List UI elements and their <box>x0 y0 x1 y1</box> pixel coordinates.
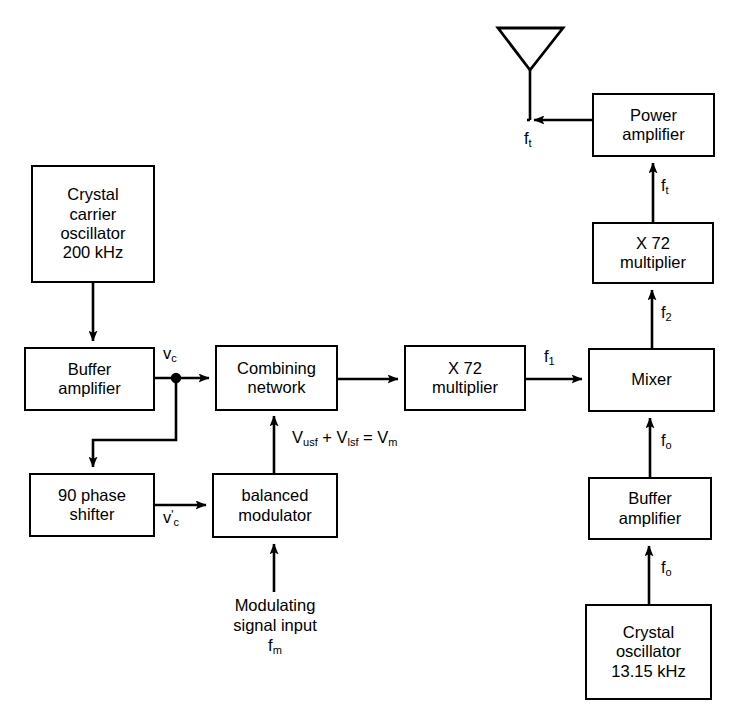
label-ft-antenna: ft <box>524 129 532 148</box>
block-line: X 72 <box>636 234 670 253</box>
modulating-line-1: Modulating <box>196 595 354 615</box>
block-line: amplifier <box>619 509 681 528</box>
block-line: 13.15 kHz <box>611 662 685 681</box>
block-line: carrier <box>70 205 117 224</box>
block-line: Power <box>630 106 677 125</box>
block-line: multiplier <box>620 253 686 272</box>
block-diagram-canvas: Crystal carrier oscillator 200 kHz Buffe… <box>0 0 744 722</box>
label-fo-mixer-in: fo <box>661 431 672 450</box>
block-line: oscillator <box>616 642 681 661</box>
block-mixer[interactable]: Mixer <box>588 348 715 412</box>
block-line: Crystal <box>67 185 118 204</box>
block-line: 90 phase <box>58 486 126 505</box>
block-crystal-carrier-oscillator[interactable]: Crystal carrier oscillator 200 kHz <box>31 165 155 283</box>
block-line: modulator <box>238 506 311 525</box>
block-buffer-amplifier-right[interactable]: Buffer amplifier <box>588 477 712 540</box>
label-modulating-signal-input: Modulating signal input fm <box>196 595 354 656</box>
block-line: amplifier <box>58 379 120 398</box>
block-line: 200 kHz <box>63 243 124 262</box>
block-buffer-amplifier-left[interactable]: Buffer amplifier <box>24 347 155 411</box>
label-vc-prime: v'c <box>163 508 179 527</box>
block-balanced-modulator[interactable]: balanced modulator <box>212 473 338 538</box>
block-line: network <box>248 378 306 397</box>
block-line: Combining <box>237 359 316 378</box>
label-fo-buffer-in: fo <box>661 558 672 577</box>
label-sideband-sum: Vusf + Vlsf = Vm <box>292 428 398 447</box>
block-line: Buffer <box>628 489 672 508</box>
block-multiplier-right[interactable]: X 72 multiplier <box>592 222 714 284</box>
label-vc: vc <box>163 344 177 363</box>
block-phase-shifter[interactable]: 90 phase shifter <box>29 473 155 537</box>
antenna-icon <box>498 28 563 120</box>
label-fm: fm <box>196 635 354 655</box>
block-combining-network[interactable]: Combining network <box>215 345 338 411</box>
block-line: Mixer <box>631 370 671 389</box>
label-ft-multiplier-out: ft <box>661 176 669 195</box>
block-line: X 72 <box>448 359 482 378</box>
modulating-line-2: signal input <box>196 615 354 635</box>
label-f2: f2 <box>661 303 672 322</box>
block-line: oscillator <box>60 224 125 243</box>
block-line: Crystal <box>623 623 674 642</box>
block-line: shifter <box>70 505 115 524</box>
block-multiplier-left[interactable]: X 72 multiplier <box>404 345 526 411</box>
block-line: amplifier <box>622 125 684 144</box>
block-line: multiplier <box>432 378 498 397</box>
label-f1: f1 <box>544 347 555 366</box>
junction-dot-vc <box>171 373 181 383</box>
block-crystal-oscillator-right[interactable]: Crystal oscillator 13.15 kHz <box>585 604 712 700</box>
block-power-amplifier[interactable]: Power amplifier <box>592 93 715 157</box>
block-line: Buffer <box>68 360 112 379</box>
block-line: balanced <box>242 486 309 505</box>
